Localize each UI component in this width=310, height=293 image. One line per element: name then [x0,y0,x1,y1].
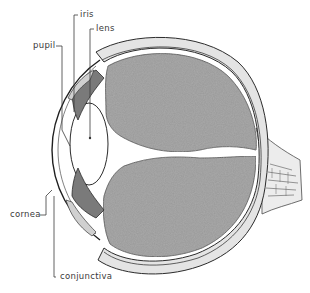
pupil-leader [56,46,70,146]
conjunctiva-leader [54,196,56,277]
label-conjunctiva: conjunctiva [60,272,112,281]
label-cornea: cornea [10,210,41,219]
label-lens: lens [96,24,115,33]
label-iris: iris [80,10,94,19]
label-pupil: pupil [33,41,55,50]
cornea-leader [40,190,52,215]
